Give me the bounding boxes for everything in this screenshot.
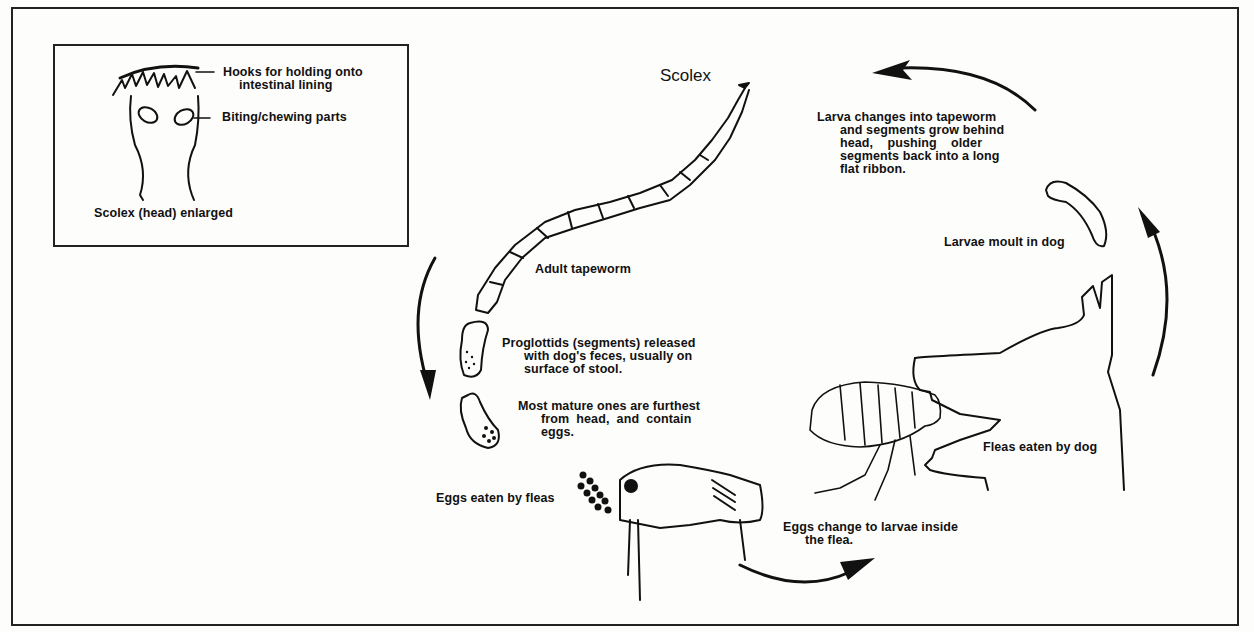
hooks-label-line2: intestinal lining — [239, 79, 332, 92]
scolex-label: Scolex — [660, 66, 711, 86]
flea-icon — [810, 382, 940, 500]
fleas-eaten-label: Fleas eaten by dog — [983, 441, 1097, 454]
dog-silhouette-icon — [913, 275, 1124, 490]
cycle-arrow-left — [418, 258, 435, 385]
inset-caption: Scolex (head) enlarged — [94, 207, 233, 220]
proglottids-line3: surface of stool. — [524, 363, 622, 376]
eggs-eaten-label: Eggs eaten by fleas — [436, 492, 555, 505]
cycle-arrow-top — [900, 68, 1035, 110]
mature-line3: eggs. — [541, 426, 574, 439]
biting-label: Biting/chewing parts — [222, 111, 347, 124]
adult-tapeworm-label: Adult tapeworm — [535, 263, 631, 276]
scolex-enlarged-icon — [113, 66, 214, 200]
cycle-arrow-right — [1153, 235, 1167, 375]
adult-tapeworm-icon — [476, 83, 749, 313]
larvae-moult-label: Larvae moult in dog — [944, 236, 1065, 249]
flea-head-closeup-icon — [620, 465, 763, 600]
larva-changes-line5: flat ribbon. — [840, 163, 906, 176]
proglottid-icon — [460, 322, 498, 448]
cycle-arrow-bottom — [740, 565, 850, 582]
lifecycle-artwork — [0, 0, 1254, 632]
eggs-cluster-icon — [578, 472, 612, 514]
eggs-change-line2: the flea. — [805, 534, 853, 547]
